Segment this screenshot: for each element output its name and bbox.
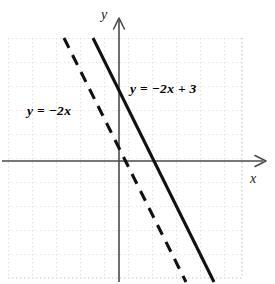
axis-label-x: x [250, 172, 256, 186]
graph-figure: y = −2x + 3 y = −2x y x [0, 0, 275, 284]
coordinate-plane [0, 0, 275, 284]
equation-label-dashed-line: y = −2x [27, 104, 71, 118]
equation-label-solid-line: y = −2x + 3 [130, 82, 197, 96]
axis-label-y: y [101, 8, 107, 22]
